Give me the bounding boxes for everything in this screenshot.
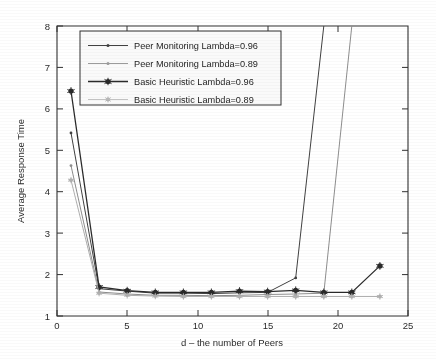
series-3 — [68, 177, 383, 300]
y-tick-labels: 1 2 3 4 5 6 7 8 — [45, 21, 50, 322]
x-axis-title: d – the number of Peers — [181, 337, 283, 348]
x-tick-label: 10 — [193, 320, 204, 331]
legend-label: Basic Heuristic Lambda=0.96 — [134, 77, 254, 87]
x-tick-label: 20 — [333, 320, 344, 331]
y-tick-label: 5 — [45, 145, 50, 156]
legend-label: Basic Heuristic Lambda=0.89 — [134, 95, 254, 105]
chart-figure: 0 5 10 15 20 25 1 2 3 — [0, 0, 436, 359]
series-line — [71, 91, 380, 292]
line-chart: 0 5 10 15 20 25 1 2 3 — [0, 0, 436, 359]
y-tick-label: 2 — [45, 269, 50, 280]
y-axis-title: Average Response Time — [15, 119, 26, 223]
x-tick-label: 25 — [403, 320, 414, 331]
y-tick-label: 6 — [45, 103, 50, 114]
x-tick-label: 15 — [263, 320, 274, 331]
legend: Peer Monitoring Lambda=0.96 Peer Monitor… — [80, 31, 281, 105]
point-marker-icon — [294, 277, 297, 280]
y-tick-label: 7 — [45, 62, 50, 73]
y-tick-label: 4 — [45, 186, 50, 197]
point-marker-icon — [70, 164, 73, 167]
x-tick-labels: 0 5 10 15 20 25 — [54, 320, 413, 331]
legend-label: Peer Monitoring Lambda=0.96 — [134, 41, 258, 51]
series-2 — [67, 87, 383, 296]
x-tick-label: 5 — [124, 320, 129, 331]
y-tick-label: 3 — [45, 228, 50, 239]
y-tick-label: 8 — [45, 21, 50, 32]
legend-label: Peer Monitoring Lambda=0.89 — [134, 59, 258, 69]
point-marker-icon — [70, 132, 73, 135]
x-tick-label: 0 — [54, 320, 59, 331]
y-tick-label: 1 — [45, 311, 50, 322]
